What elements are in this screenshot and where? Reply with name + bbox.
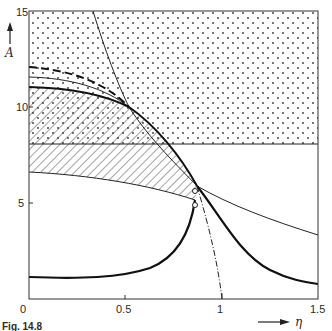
thick-right-branch xyxy=(197,186,318,284)
x-tick-label-0: 0 xyxy=(20,303,26,315)
phase-diagram: 15 10 5 0 0.5 1 1.5 A η Fig. 14.8 xyxy=(0,0,332,331)
figure-caption: Fig. 14.8 xyxy=(2,321,42,331)
x-tick-label-1: 1 xyxy=(217,303,223,315)
y-tick-label-15: 15 xyxy=(16,6,28,18)
y-axis-label: A xyxy=(4,46,14,60)
open-circle-marker xyxy=(193,203,198,208)
right-arrow-icon xyxy=(258,319,290,325)
x-axis-label: η xyxy=(295,315,303,329)
y-tick-label-5: 5 xyxy=(18,197,24,209)
thick-bottom-curve xyxy=(29,200,195,278)
open-circle-marker xyxy=(193,189,198,194)
y-tick-label-10: 10 xyxy=(16,101,28,113)
x-tick-label-1.5: 1.5 xyxy=(310,303,325,315)
up-arrow-icon xyxy=(7,22,13,44)
x-tick-label-0.5: 0.5 xyxy=(116,303,131,315)
